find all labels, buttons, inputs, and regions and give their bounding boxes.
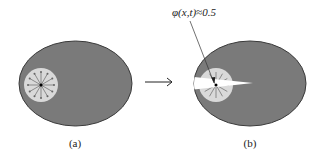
caption-a: (a) bbox=[69, 137, 82, 150]
panel-b: φ(x,t)≈0.5 (b) bbox=[172, 6, 306, 150]
panel-a: (a) bbox=[19, 41, 132, 150]
phase-field-fracture-diagram: (a) φ(x,t)≈0.5 bbox=[0, 0, 323, 156]
transition-arrow bbox=[145, 78, 172, 86]
crack-tip-point-b bbox=[215, 84, 218, 87]
phase-field-label: φ(x,t)≈0.5 bbox=[172, 6, 216, 19]
source-point-a bbox=[40, 84, 43, 87]
caption-b: (b) bbox=[244, 137, 257, 150]
